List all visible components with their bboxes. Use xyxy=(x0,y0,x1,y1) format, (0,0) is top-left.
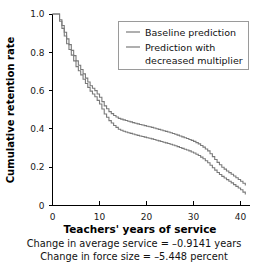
y-axis-title-group: Cumulative retention rate xyxy=(5,37,16,184)
y-axis-title: Cumulative retention rate xyxy=(5,37,16,184)
x-tick-label: 20 xyxy=(141,212,153,222)
y-tick-label: 0.2 xyxy=(30,162,44,172)
legend-label-decreased-multiplier-line1: Prediction with xyxy=(145,42,215,53)
retention-rate-figure: Cumulative retention rate 00.20.40.60.81… xyxy=(0,0,267,274)
x-axis-title: Teachers' years of service xyxy=(63,223,216,235)
y-tick-label: 0.6 xyxy=(30,86,45,96)
y-tick-label: 1.0 xyxy=(30,9,45,19)
caption-force-size: Change in force size = –5.448 percent xyxy=(40,251,228,262)
x-tick-label: 10 xyxy=(94,212,106,222)
caption-average-service: Change in average service = –0.9141 year… xyxy=(27,238,242,249)
y-tick-labels: 00.20.40.60.81.0 xyxy=(30,9,45,211)
chart-svg: Cumulative retention rate 00.20.40.60.81… xyxy=(0,0,267,274)
x-tick-labels: 010203040 xyxy=(50,212,247,222)
x-tick-label: 30 xyxy=(188,212,200,222)
legend: Baseline prediction Prediction with decr… xyxy=(119,22,249,70)
legend-label-decreased-multiplier-line2: decreased multiplier xyxy=(145,55,243,66)
legend-label-baseline: Baseline prediction xyxy=(145,27,236,38)
y-tick-label: 0.8 xyxy=(30,48,45,58)
y-tick-label: 0 xyxy=(39,201,45,211)
x-tick-label: 0 xyxy=(50,212,56,222)
x-tick-label: 40 xyxy=(235,212,247,222)
y-tick-label: 0.4 xyxy=(30,124,45,134)
